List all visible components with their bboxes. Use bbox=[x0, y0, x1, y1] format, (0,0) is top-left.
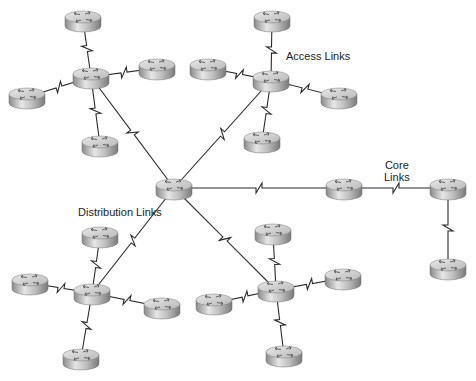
router-icon bbox=[430, 259, 466, 280]
router-icon bbox=[144, 298, 180, 319]
router-icon bbox=[65, 11, 101, 32]
router-icon bbox=[9, 88, 45, 109]
router-icon bbox=[430, 179, 466, 200]
router-icon bbox=[190, 59, 226, 80]
core-links-label: Core Links bbox=[384, 159, 410, 183]
router-icon bbox=[82, 227, 118, 248]
router-icon bbox=[74, 284, 110, 305]
core-links-label-line1: Core bbox=[384, 159, 410, 171]
router-icon bbox=[258, 281, 294, 302]
access-links-label: Access Links bbox=[286, 50, 350, 62]
router-icon bbox=[254, 11, 290, 32]
router-icon bbox=[326, 179, 362, 200]
distribution-links-label: Distribution Links bbox=[78, 206, 162, 218]
router-icon bbox=[321, 88, 357, 109]
router-icon bbox=[73, 68, 109, 89]
routers-layer bbox=[9, 11, 466, 370]
router-icon bbox=[139, 59, 175, 80]
router-icon bbox=[196, 294, 232, 315]
router-icon bbox=[156, 179, 192, 200]
router-icon bbox=[244, 132, 280, 153]
router-icon bbox=[266, 346, 302, 367]
router-icon bbox=[255, 224, 291, 245]
router-icon bbox=[253, 71, 289, 92]
router-icon bbox=[63, 349, 99, 370]
router-icon bbox=[12, 274, 48, 295]
router-icon bbox=[325, 269, 361, 290]
router-icon bbox=[82, 136, 118, 157]
core-links-label-line2: Links bbox=[384, 171, 410, 183]
network-diagram bbox=[0, 0, 476, 381]
core-link bbox=[174, 183, 344, 193]
distribution-link bbox=[91, 77, 174, 188]
